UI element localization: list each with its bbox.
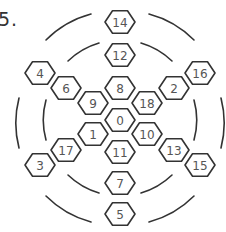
hexagon-7: 7 xyxy=(105,172,135,195)
hexagon-label: 14 xyxy=(112,16,127,30)
hexagon-1: 1 xyxy=(78,123,108,146)
hexagon-label: 11 xyxy=(112,146,127,160)
hexagon-label: 16 xyxy=(192,67,207,81)
hexagon-label: 2 xyxy=(170,82,178,96)
hexagon-4: 4 xyxy=(25,62,55,85)
hexagon-5: 5 xyxy=(105,203,135,226)
hexagon-label: 12 xyxy=(112,49,127,63)
hexagon-15: 15 xyxy=(185,154,215,177)
hexagon-10: 10 xyxy=(132,123,162,146)
hexagon-label: 9 xyxy=(89,97,97,111)
arc-outer-left xyxy=(16,98,19,148)
hexagon-18: 18 xyxy=(132,92,162,115)
arc-inner-bottom-left xyxy=(68,175,99,193)
hexagon-label: 3 xyxy=(36,159,44,173)
arc-inner-bottom-right xyxy=(141,175,172,193)
hexagon-label: 10 xyxy=(139,128,154,142)
arc-inner-left xyxy=(43,100,46,140)
hexagon-9: 9 xyxy=(78,92,108,115)
hexagon-ring-diagram: 1412801175469117316218101315 xyxy=(0,0,226,232)
hexagon-label: 1 xyxy=(89,128,97,142)
arc-outer-bottom-left xyxy=(46,196,91,222)
hexagon-label: 7 xyxy=(116,177,124,191)
arc-outer-bottom-right xyxy=(149,196,194,222)
hexagon-label: 17 xyxy=(58,144,73,158)
hexagon-label: 13 xyxy=(166,144,181,158)
hexagon-17: 17 xyxy=(51,139,81,162)
hexagon-12: 12 xyxy=(105,44,135,67)
hexagon-2: 2 xyxy=(159,77,189,100)
hexagon-label: 0 xyxy=(116,114,124,128)
hexagon-13: 13 xyxy=(159,139,189,162)
hexagon-16: 16 xyxy=(185,62,215,85)
arc-inner-top-left xyxy=(68,43,99,61)
hexagon-label: 4 xyxy=(36,67,44,81)
arc-outer-top-right xyxy=(149,14,194,40)
hexagon-label: 15 xyxy=(192,159,207,173)
hexagon-label: 6 xyxy=(62,82,70,96)
hexagon-label: 18 xyxy=(139,97,154,111)
arc-inner-top-right xyxy=(141,43,172,61)
arc-outer-right xyxy=(221,98,224,148)
hexagon-3: 3 xyxy=(25,154,55,177)
arc-inner-right xyxy=(194,100,197,140)
hexagon-label: 5 xyxy=(116,208,124,222)
hexagon-0: 0 xyxy=(105,109,135,132)
hexagon-14: 14 xyxy=(105,11,135,34)
hexagon-11: 11 xyxy=(105,141,135,164)
hexagon-6: 6 xyxy=(51,77,81,100)
hexagon-group: 1412801175469117316218101315 xyxy=(25,11,215,226)
hexagon-8: 8 xyxy=(105,77,135,100)
hexagon-label: 8 xyxy=(116,82,124,96)
arc-outer-top-left xyxy=(46,14,91,40)
